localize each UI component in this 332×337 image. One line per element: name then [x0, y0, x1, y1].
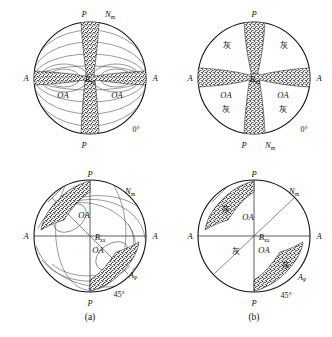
label-OA-left: OA [57, 90, 69, 100]
caption-a: (a) [70, 312, 110, 322]
label-P-top: P [250, 9, 256, 19]
label-OA-right: OA [111, 90, 123, 100]
label-gray-topright: 灰 [280, 40, 288, 50]
label-Nm: Nm [288, 186, 300, 197]
label-gray-bottomright: 灰 [279, 104, 287, 114]
label-A-left: A [186, 231, 193, 241]
label-OA-lower: OA [92, 245, 104, 255]
label-A-left: A [22, 73, 29, 83]
label-Ap: AP [128, 270, 137, 281]
label-Nm: Nm [124, 186, 136, 197]
panel-b-45deg: P Nm A A Bxa 灰 OA 灰 OA 灰 AP P 45° [182, 168, 332, 318]
label-P-top: P [250, 169, 256, 179]
label-angle: 0° [132, 125, 139, 134]
label-A-left: A [22, 231, 29, 241]
label-P-bottom: P [240, 140, 246, 150]
label-gray-lowerleft: 灰 [232, 246, 240, 256]
label-P-top: P [80, 9, 86, 19]
label-Ap: AP [297, 272, 306, 283]
label-P-bottom: P [80, 140, 86, 150]
interference-figure-plate: P Nm A A Bxa OA OA P 0° [0, 0, 332, 337]
label-A-right: A [315, 231, 322, 241]
label-P-bottom: P [250, 298, 256, 308]
label-gray-topleft: 灰 [223, 40, 231, 50]
caption-b: (b) [234, 312, 274, 322]
panel-a-0deg: P Nm A A Bxa OA OA P 0° [18, 8, 168, 158]
label-A-right: A [315, 73, 322, 83]
label-A-right: A [151, 73, 158, 83]
label-gray-bottomleft: 灰 [222, 104, 230, 114]
label-angle: 45° [280, 291, 291, 300]
label-angle: 45° [113, 290, 124, 299]
label-angle: 0° [300, 125, 307, 134]
label-A-right: A [151, 231, 158, 241]
label-P-bottom: P [86, 298, 92, 308]
label-OA-right: OA [277, 90, 289, 100]
label-OA-upper: OA [78, 210, 90, 220]
label-A-left: A [186, 73, 193, 83]
label-gray-upperleft: 灰 [222, 204, 230, 214]
panel-a-45deg: P Nm A A Bxa OA OA AP P 45° [18, 168, 168, 318]
label-gray-lowerright: 灰 [282, 260, 290, 270]
label-Nm: Nm [104, 9, 116, 20]
panel-b-0deg: P A A Bxa 灰 灰 OA OA 灰 灰 P Nm 0° [182, 8, 332, 158]
label-Nm: Nm [264, 140, 276, 151]
label-P-top: P [86, 169, 92, 179]
label-OA-upper: OA [242, 212, 254, 222]
label-OA-left: OA [220, 90, 232, 100]
label-OA-lower: OA [258, 245, 270, 255]
